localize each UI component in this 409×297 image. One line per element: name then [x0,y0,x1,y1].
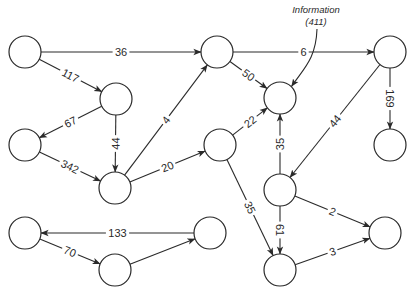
edge-label-group: 169 [383,87,397,110]
node-K [9,217,41,249]
edge-label-group: 35 [240,197,260,218]
node-N [264,254,296,286]
edge-weight-label: 6 [300,46,306,58]
node-D [99,172,131,204]
node-I [204,129,236,161]
node-H [374,129,406,161]
edge-label-group: 3 [325,243,339,260]
edge-label-group: 22 [239,111,261,132]
edge-weight-label: 36 [115,46,127,58]
node-O [369,217,401,249]
edge-weight-label: 133 [108,227,126,239]
edge-label-group: 44 [324,110,345,132]
node-A [9,36,41,68]
node-M [194,217,226,249]
node-E [201,36,233,68]
edge-label-group: 70 [60,242,81,261]
annotation-value: (411) [305,16,326,27]
edge-label-group: 117 [57,64,84,87]
edge-weight-label: 35 [274,138,286,150]
edge-weight-label: 169 [384,89,396,107]
edge-label-group: 44 [108,135,122,152]
edge-label-group: 61 [273,222,287,239]
edge-label-group: 50 [238,64,260,85]
edge-label-group: 67 [60,112,81,132]
edge-label-group: 35 [273,136,287,153]
node-C [9,129,41,161]
graph-diagram: 36117674434242065022351694435612313370 I… [0,0,409,297]
edge-label-group: 20 [157,157,178,176]
annotation-title: Information [292,4,340,15]
node-F [264,82,296,114]
edge-label-group: 342 [57,155,84,178]
edge-label-group: 36 [113,45,130,59]
node-J [264,174,296,206]
edge-label-group: 2 [325,203,340,220]
edge-weight-label: 44 [109,137,121,149]
edge-L-M [130,239,195,264]
edge-label-group: 6 [298,45,308,59]
edge-weight-label: 61 [274,224,286,236]
node-G [374,36,406,68]
node-L [99,254,131,286]
edge-label-group: 4 [157,112,174,129]
node-B [100,83,132,115]
edge-label-group: 133 [106,226,129,240]
